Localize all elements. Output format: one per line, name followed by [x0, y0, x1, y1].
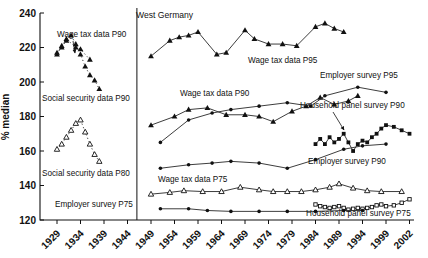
open-triangle-marker — [59, 141, 64, 146]
series-label: Household panel survey P75 — [306, 209, 411, 218]
y-tick-label: 240 — [19, 8, 36, 19]
circle-marker — [159, 207, 163, 211]
series-label: Employer survey P75 — [55, 200, 133, 209]
circle-marker — [286, 210, 290, 214]
open-triangle-marker — [68, 128, 73, 133]
square-marker — [337, 137, 341, 141]
series-label: Employer survey P90 — [308, 157, 386, 166]
circle-marker — [187, 118, 191, 122]
open-square-marker — [380, 203, 383, 206]
square-marker — [342, 132, 346, 136]
circle-marker — [159, 141, 163, 145]
circle-marker — [384, 91, 388, 95]
triangle-marker — [96, 86, 102, 91]
open-square-marker — [392, 204, 395, 207]
x-tick-label: 1934 — [62, 227, 86, 251]
open-triangle-marker — [336, 181, 341, 186]
open-square-marker — [375, 204, 378, 207]
square-marker — [323, 142, 327, 146]
circle-marker — [187, 163, 191, 167]
open-triangle-marker — [238, 184, 243, 189]
circle-marker — [229, 160, 233, 164]
circle-marker — [159, 166, 163, 170]
square-marker — [328, 135, 332, 139]
triangle-marker — [355, 93, 361, 98]
open-square-marker — [337, 205, 340, 208]
series-household-panel-survey-p90 — [314, 123, 412, 153]
square-marker — [361, 139, 365, 143]
panel-label-west-germany: West Germany — [136, 10, 194, 20]
x-tick-label: 1944 — [109, 227, 133, 251]
x-tick-label: 1994 — [344, 227, 368, 251]
series-label: Social security data P80 — [42, 169, 130, 178]
triangle-marker — [242, 27, 248, 32]
x-tick-label: 1974 — [250, 227, 274, 251]
series-label: Social security data P90 — [42, 94, 130, 103]
open-triangle-marker — [78, 117, 83, 122]
y-tick-label: 120 — [19, 215, 36, 226]
square-marker — [392, 125, 396, 129]
circle-marker — [257, 104, 261, 108]
x-tick-label: 1949 — [133, 227, 157, 251]
x-tick-label: 1999 — [368, 227, 392, 251]
triangle-marker — [322, 20, 328, 25]
triangle-marker — [87, 57, 93, 62]
square-marker — [400, 128, 404, 132]
open-triangle-marker — [83, 129, 88, 134]
open-square-marker — [314, 203, 317, 206]
series-social-security-data-p90 — [54, 32, 102, 91]
circle-marker — [356, 85, 360, 89]
label-arrow — [333, 112, 344, 130]
circle-marker — [361, 144, 365, 148]
series-label: Household panel survey P90 — [300, 101, 405, 110]
circle-marker — [257, 210, 261, 214]
circle-marker — [384, 142, 388, 146]
square-marker — [356, 142, 360, 146]
circle-marker — [323, 94, 327, 98]
circle-marker — [187, 207, 191, 211]
circle-marker — [286, 166, 290, 170]
chart-canvas: 120140160180200220240% median19291934193… — [0, 0, 428, 258]
x-tick-label: 1989 — [321, 227, 345, 251]
triangle-marker — [78, 51, 84, 56]
square-marker — [314, 142, 318, 146]
square-marker — [365, 140, 369, 144]
open-triangle-marker — [64, 134, 69, 139]
x-tick-label: 1964 — [203, 227, 227, 251]
x-tick-label: 1984 — [297, 227, 321, 251]
series-label: Wage tax data P90 — [180, 89, 250, 98]
open-triangle-marker — [87, 141, 92, 146]
open-triangle-marker — [54, 146, 59, 151]
square-marker — [332, 140, 336, 144]
open-square-marker — [408, 198, 411, 201]
circle-marker — [286, 101, 290, 105]
x-tick-label: 1979 — [274, 227, 298, 251]
circle-marker — [210, 111, 214, 115]
triangle-marker — [195, 29, 201, 34]
open-square-marker — [384, 205, 387, 208]
data-series — [54, 20, 411, 213]
circle-marker — [257, 161, 261, 165]
x-tick-label: 1969 — [227, 227, 251, 251]
y-tick-label: 180 — [19, 111, 36, 122]
earnings-percentiles-chart: 120140160180200220240% median19291934193… — [0, 0, 428, 258]
y-tick-label: 140 — [19, 180, 36, 191]
square-marker — [370, 135, 374, 139]
x-tick-label: 2002 — [391, 227, 415, 251]
square-marker — [375, 132, 379, 136]
series-label: Wage tax data P95 — [248, 56, 318, 65]
square-marker — [379, 127, 383, 131]
square-marker — [408, 132, 412, 136]
square-marker — [384, 123, 388, 127]
triangle-marker — [82, 63, 88, 68]
triangle-marker — [92, 77, 98, 82]
series-label: Wage tax data P75 — [158, 175, 228, 184]
y-tick-label: 160 — [19, 146, 36, 157]
circle-marker — [229, 210, 233, 214]
series-label: Employer survey P95 — [320, 71, 398, 80]
triangle-marker — [205, 105, 211, 110]
triangle-marker — [331, 26, 337, 31]
series-social-security-data-p80 — [54, 117, 102, 163]
circle-marker — [210, 161, 214, 165]
x-tick-label: 1959 — [180, 227, 204, 251]
